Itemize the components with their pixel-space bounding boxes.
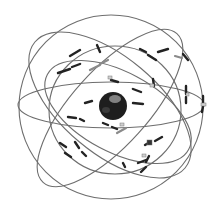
earth-icon xyxy=(99,92,127,120)
gps-constellation-figure: Illustration of Earth surrounded by six … xyxy=(0,0,223,213)
satellites xyxy=(58,45,206,172)
constellation-illustration xyxy=(0,0,223,213)
